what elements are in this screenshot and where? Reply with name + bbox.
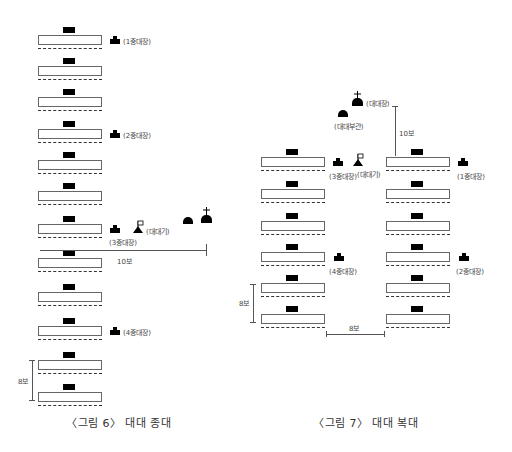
squad-unit (38, 216, 102, 238)
company-commander-icon (110, 36, 120, 44)
distance-label-8: 8보 (18, 376, 28, 386)
label-co2: (2중대장) (456, 266, 484, 276)
battalion-flag-icon (352, 153, 366, 167)
battalion-commander-icon (201, 215, 212, 223)
squad-unit (386, 306, 450, 328)
label-co4: (4중대장) (123, 327, 151, 337)
squad-unit (38, 318, 102, 340)
distance-label-10: 10보 (399, 128, 414, 138)
battalion-adjutant-icon (183, 217, 193, 224)
distance-tick (206, 244, 207, 256)
label-co1: (1중대장) (123, 36, 151, 46)
battalion-commander-icon (352, 98, 363, 106)
company-commander-icon (110, 225, 120, 233)
label-co2: (2중대장) (123, 130, 151, 140)
company-commander-icon (333, 158, 343, 166)
squad-unit (38, 250, 102, 272)
label-flag: (대대기) (146, 226, 169, 236)
company-commander-icon (110, 327, 120, 335)
distance-arrow-8-vertical (253, 284, 254, 322)
distance-tick (29, 400, 35, 401)
squad-unit (38, 284, 102, 306)
squad-unit (261, 306, 325, 328)
squad-unit (261, 213, 325, 235)
distance-label-8-vertical: 8보 (239, 298, 249, 308)
distance-tick (384, 331, 385, 337)
company-commander-icon (334, 253, 344, 261)
squad-unit (386, 181, 450, 203)
label-bn-cmdr: (대대장) (366, 98, 389, 108)
squad-unit (38, 183, 102, 205)
label-flag: (대대기) (357, 169, 380, 179)
distance-label-8-horizontal: 8보 (349, 323, 359, 333)
distance-arrow-8-horizontal (326, 334, 384, 335)
distance-arrow-10 (40, 250, 206, 251)
squad-unit (261, 181, 325, 203)
company-commander-icon (459, 253, 469, 261)
squad-unit (38, 384, 102, 406)
battalion-adjutant-icon (338, 110, 348, 117)
label-bn-xo: (대대부관) (334, 121, 363, 131)
figure-6-caption: 〈그림 6〉 대대 종대 (66, 414, 172, 430)
squad-unit (261, 149, 325, 171)
battalion-flag-icon (132, 220, 146, 234)
distance-arrow-10 (395, 106, 396, 156)
company-commander-icon (458, 158, 468, 166)
squad-unit (38, 89, 102, 111)
distance-label-10: 10보 (117, 256, 132, 266)
squad-unit (38, 121, 102, 143)
squad-unit (38, 152, 102, 174)
label-co3: (3중대장) (109, 237, 137, 247)
company-commander-icon (110, 130, 120, 138)
figure-7-caption: 〈그림 7〉 대대 복대 (313, 414, 419, 430)
squad-unit (38, 27, 102, 49)
squad-unit (38, 58, 102, 80)
label-co4: (4중대장) (329, 266, 357, 276)
squad-unit (261, 275, 325, 297)
squad-unit (386, 275, 450, 297)
label-co1: (1중대장) (457, 171, 485, 181)
squad-unit (38, 352, 102, 374)
label-co3: (3중대장) (329, 171, 357, 181)
distance-tick (250, 322, 256, 323)
squad-unit (386, 213, 450, 235)
cross-icon (202, 207, 211, 216)
distance-arrow-8 (32, 360, 33, 400)
squad-unit (261, 244, 325, 266)
squad-unit (386, 244, 450, 266)
